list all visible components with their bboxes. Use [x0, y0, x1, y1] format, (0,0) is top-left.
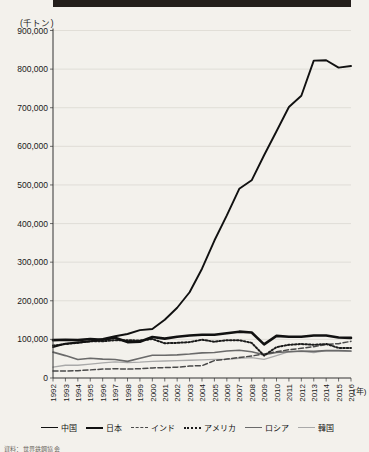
legend-swatch-icon	[184, 424, 201, 431]
legend-label: 中国	[61, 422, 77, 433]
data-series-group	[53, 60, 351, 371]
legend-swatch-icon	[86, 424, 103, 431]
x-axis-tick-label: 2001	[161, 383, 170, 401]
y-axis-tick-label: 200,000	[17, 296, 48, 306]
legend-label: インド	[151, 422, 175, 433]
x-axis-tick-label: 2006	[223, 383, 232, 401]
y-axis-tick-label: 900,000	[17, 26, 48, 36]
x-axis-tick-label: 2000	[149, 383, 158, 401]
legend-label: 日本	[106, 422, 122, 433]
y-axis-tick-label: 400,000	[17, 219, 48, 229]
x-axis-tick-marks	[53, 378, 351, 382]
x-axis-tick-label: 1992	[49, 383, 58, 401]
series-line	[53, 341, 351, 371]
x-axis-tick-label: 2005	[211, 383, 220, 401]
x-axis-tick-label: 2008	[248, 383, 257, 401]
legend-swatch-icon	[131, 424, 148, 431]
x-axis-tick-label: 2003	[186, 383, 195, 401]
x-axis-tick-label: 1997	[111, 383, 120, 401]
legend-item[interactable]: アメリカ	[184, 422, 236, 433]
y-axis-tick-label: 700,000	[17, 103, 48, 113]
legend-item[interactable]: 中国	[41, 422, 77, 433]
x-axis-tick-label: 2013	[310, 383, 319, 401]
source-caption: 資料：世界鉄鋼協会	[4, 444, 204, 452]
line-chart: 0100,000200,000300,000400,000500,000600,…	[0, 0, 369, 452]
x-axis-tick-label: 1998	[124, 383, 133, 401]
y-axis-tick-label: 800,000	[17, 64, 48, 74]
x-axis-tick-label: 2011	[285, 383, 294, 401]
x-axis-tick-label: 2004	[198, 383, 207, 401]
legend-swatch-icon	[245, 424, 262, 431]
legend-item[interactable]: 日本	[86, 422, 122, 433]
y-axis-tick-label: 100,000	[17, 334, 48, 344]
x-axis-label: (年)	[353, 386, 367, 396]
legend-item[interactable]: 韓国	[298, 422, 334, 433]
y-axis-tick-labels: 0100,000200,000300,000400,000500,000600,…	[17, 26, 48, 384]
legend-item[interactable]: ロシア	[245, 422, 289, 433]
chart-legend: 中国日本インドアメリカロシア韓国	[22, 419, 352, 435]
x-axis-tick-label: 2012	[298, 383, 307, 401]
series-line	[53, 332, 351, 345]
legend-swatch-icon	[298, 424, 315, 431]
x-axis-tick-label: 1995	[86, 383, 95, 401]
legend-item[interactable]: インド	[131, 422, 175, 433]
y-axis-tick-label: 300,000	[17, 257, 48, 267]
x-axis-tick-label: 2007	[235, 383, 244, 401]
x-axis-tick-labels: 1992199319941995199619971998199920002001…	[49, 383, 356, 401]
x-axis-tick-label: 1999	[136, 383, 145, 401]
x-axis-tick-label: 2015	[335, 383, 344, 401]
x-axis-tick-label: 1994	[74, 383, 83, 401]
y-axis-tick-label: 0	[43, 373, 48, 383]
legend-label: 韓国	[318, 422, 334, 433]
y-axis-tick-label: 500,000	[17, 180, 48, 190]
x-axis-tick-label: 2010	[273, 383, 282, 401]
legend-label: ロシア	[265, 422, 289, 433]
y-axis-tick-label: 600,000	[17, 141, 48, 151]
chart-svg: 0100,000200,000300,000400,000500,000600,…	[0, 0, 369, 452]
legend-label: アメリカ	[204, 422, 236, 433]
x-axis-tick-label: 2002	[173, 383, 182, 401]
series-line	[53, 60, 351, 347]
legend-swatch-icon	[41, 424, 58, 431]
x-axis-tick-label: 2014	[322, 383, 331, 401]
x-axis-tick-label: 1993	[62, 383, 71, 401]
x-axis-tick-label: 1996	[99, 383, 108, 401]
x-axis-tick-label: 2009	[260, 383, 269, 401]
